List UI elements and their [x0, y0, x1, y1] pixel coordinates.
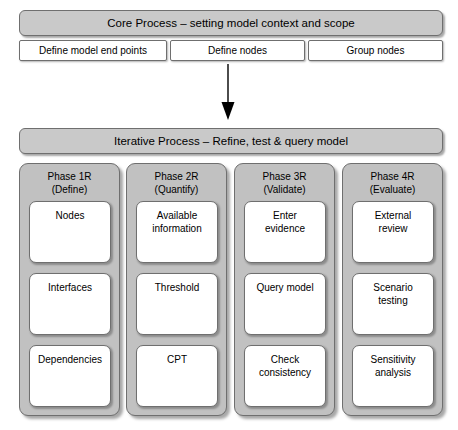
phase-column-1r: Phase 1R (Define) Nodes Interfaces Depen…: [19, 163, 120, 416]
phase-2r-item-available-information[interactable]: Available information: [136, 201, 218, 263]
phase-title-4r: Phase 4R (Evaluate): [343, 171, 442, 196]
phase-title-1r: Phase 1R (Define): [20, 171, 119, 196]
phase-1r-item-nodes[interactable]: Nodes: [29, 201, 111, 263]
phase-column-3r: Phase 3R (Validate) Enter evidence Query…: [234, 163, 335, 416]
phase-2r-item-threshold[interactable]: Threshold: [136, 273, 218, 335]
phase-title-3r: Phase 3R (Validate): [235, 171, 334, 196]
core-step-define-nodes[interactable]: Define nodes: [170, 40, 305, 61]
phase-3r-item-query-model[interactable]: Query model: [244, 273, 326, 335]
process-diagram: Core Process – setting model context and…: [0, 0, 458, 430]
phase-4r-item-scenario-testing[interactable]: Scenario testing: [352, 273, 434, 335]
iterative-process-header: Iterative Process – Refine, test & query…: [19, 128, 443, 154]
phase-4r-item-sensitivity-analysis[interactable]: Sensitivity analysis: [352, 345, 434, 407]
down-arrow-icon: [212, 64, 244, 120]
core-process-header: Core Process – setting model context and…: [19, 10, 443, 36]
core-step-group-nodes[interactable]: Group nodes: [308, 40, 443, 61]
phase-1r-item-dependencies[interactable]: Dependencies: [29, 345, 111, 407]
phase-3r-item-enter-evidence[interactable]: Enter evidence: [244, 201, 326, 263]
core-step-define-model-end-points[interactable]: Define model end points: [19, 40, 167, 61]
phase-column-4r: Phase 4R (Evaluate) External review Scen…: [342, 163, 443, 416]
phase-title-2r: Phase 2R (Quantify): [127, 171, 226, 196]
phase-1r-item-interfaces[interactable]: Interfaces: [29, 273, 111, 335]
phase-2r-item-cpt[interactable]: CPT: [136, 345, 218, 407]
phase-column-2r: Phase 2R (Quantify) Available informatio…: [126, 163, 227, 416]
phase-3r-item-check-consistency[interactable]: Check consistency: [244, 345, 326, 407]
phase-4r-item-external-review[interactable]: External review: [352, 201, 434, 263]
